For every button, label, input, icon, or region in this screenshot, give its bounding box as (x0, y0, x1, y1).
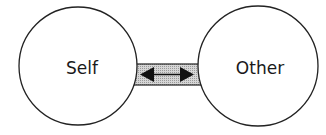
bridge-connector (132, 64, 202, 85)
other-node-label: Other (200, 58, 320, 78)
self-node-label: Self (22, 58, 142, 78)
self-other-diagram: Self Other (0, 0, 326, 135)
